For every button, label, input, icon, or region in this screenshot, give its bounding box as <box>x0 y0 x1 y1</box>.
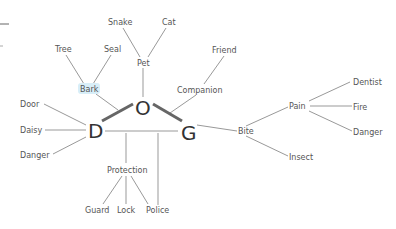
node-guard: Guard <box>85 206 109 215</box>
node-danger-left: Danger <box>20 151 50 160</box>
node-insect: Insect <box>289 153 313 162</box>
node-bite: Bite <box>238 127 254 136</box>
node-danger-right: Danger <box>353 128 383 137</box>
mind-map-diagram: D O G Snake Cat Tree Seal Pet Friend Bar… <box>0 0 396 229</box>
node-snake: Snake <box>108 18 132 27</box>
core-letter-o: O <box>135 96 151 120</box>
node-lock: Lock <box>117 206 136 215</box>
node-protection: Protection <box>107 166 147 175</box>
node-daisy: Daisy <box>20 126 42 135</box>
node-police: Police <box>146 206 169 215</box>
node-pet: Pet <box>137 59 150 68</box>
core-letter-g: G <box>181 121 197 145</box>
core-letter-d: D <box>88 119 103 143</box>
strong-edge-o-g <box>153 104 182 121</box>
node-fire: Fire <box>353 103 367 112</box>
node-bark: Bark <box>80 85 99 94</box>
node-companion: Companion <box>177 86 223 95</box>
edges <box>44 28 352 205</box>
strong-edge-d-o <box>102 104 133 121</box>
node-pain: Pain <box>289 102 306 111</box>
node-seal: Seal <box>104 45 121 54</box>
node-tree: Tree <box>54 45 72 54</box>
node-friend: Friend <box>212 46 237 55</box>
node-dentist: Dentist <box>353 78 382 87</box>
node-cat: Cat <box>162 18 176 27</box>
node-door: Door <box>20 100 40 109</box>
